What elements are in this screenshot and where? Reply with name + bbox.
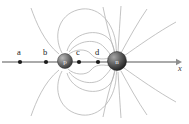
field-line-arc-5-mirror bbox=[31, 70, 59, 116]
field-line-arc-6-mirror bbox=[103, 71, 115, 117]
field-line-arc-3-mirror bbox=[67, 68, 115, 91]
field-line-arc-3 bbox=[67, 33, 115, 56]
field-line-arc-9-mirror bbox=[124, 68, 176, 102]
point-dot-c bbox=[77, 60, 81, 64]
field-line-arc-7-mirror bbox=[118, 72, 121, 118]
field-line-arc-4-mirror bbox=[58, 68, 117, 115]
field-line-arc-1-mirror bbox=[68, 65, 110, 74]
field-lines-upper bbox=[31, 6, 176, 59]
field-line-arc-9 bbox=[124, 22, 176, 56]
field-lines-lower bbox=[31, 65, 176, 118]
field-line-arc-6 bbox=[103, 7, 115, 53]
x-axis bbox=[2, 59, 182, 65]
field-line-arc-7 bbox=[118, 6, 121, 52]
point-label-c: c bbox=[76, 47, 80, 57]
dipole-field-figure: p n a b c d x bbox=[0, 0, 189, 124]
field-line-arc-8 bbox=[121, 9, 147, 53]
field-line-arc-1 bbox=[68, 50, 110, 59]
figure-canvas: p n a b c d x bbox=[0, 0, 189, 124]
left-charge-label: p bbox=[63, 58, 67, 66]
field-line-arc-2-mirror bbox=[69, 67, 112, 83]
right-charge-label: n bbox=[115, 58, 119, 66]
x-axis-label: x bbox=[177, 63, 182, 73]
point-dot-d bbox=[96, 60, 100, 64]
point-label-b: b bbox=[43, 47, 47, 57]
field-line-arc-8-mirror bbox=[121, 71, 147, 115]
point-label-d: d bbox=[95, 47, 100, 57]
point-dot-b bbox=[44, 60, 48, 64]
charge-spheres: p n bbox=[58, 52, 127, 71]
point-label-a: a bbox=[17, 47, 21, 57]
point-dot-a bbox=[18, 60, 22, 64]
field-line-arc-4 bbox=[58, 9, 117, 56]
point-labels: a b c d bbox=[17, 47, 100, 57]
